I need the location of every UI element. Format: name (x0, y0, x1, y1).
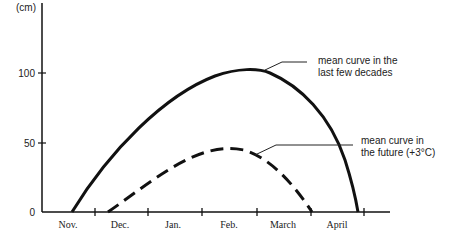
month-label-dec: Dec. (111, 219, 130, 230)
month-label-feb: Feb. (220, 219, 238, 230)
annotation-solid-line1: mean curve in the (318, 55, 398, 66)
y-unit-label: (cm) (16, 2, 36, 13)
y-label-100: 100 (18, 68, 35, 79)
annotation-dashed-line2: the future (+3°C) (361, 147, 435, 158)
month-label-march: March (270, 219, 296, 230)
month-label-nov: Nov. (58, 219, 77, 230)
y-label-50: 50 (24, 138, 36, 149)
month-label-april: April (326, 219, 347, 230)
month-label-jan: Jan. (165, 219, 181, 230)
snow-depth-chart: (cm) 100 50 0 Nov. Dec. Jan. Feb. March … (0, 0, 451, 242)
y-label-0: 0 (29, 207, 35, 218)
solid-curve-last-decades (72, 70, 358, 212)
annotation-solid-line2: last few decades (318, 67, 393, 78)
annotation-dashed-line1: mean curve in (361, 135, 424, 146)
leader-line-solid (265, 62, 307, 70)
dashed-curve-future (108, 149, 312, 212)
